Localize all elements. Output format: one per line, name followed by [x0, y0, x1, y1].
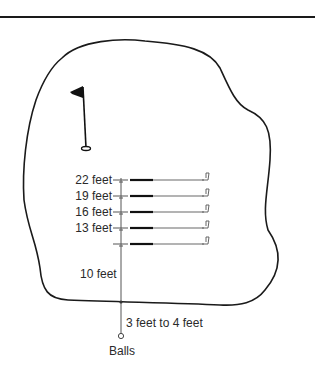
flag-icon [70, 86, 91, 151]
club-row-5 [130, 237, 209, 244]
distance-label-13: 13 feet [52, 221, 112, 235]
balls-marker-icon [118, 333, 123, 338]
distance-label-16: 16 feet [52, 205, 112, 219]
club-row-2 [130, 189, 209, 196]
gap-label: 10 feet [80, 267, 117, 281]
club-row-3 [130, 205, 209, 212]
distance-label-22: 22 feet [52, 173, 112, 187]
offgreen-distance-label: 3 feet to 4 feet [126, 316, 203, 330]
balls-label: Balls [109, 344, 135, 358]
club-row-4 [130, 221, 209, 228]
club-row-1 [130, 173, 209, 180]
distance-label-19: 19 feet [52, 189, 112, 203]
hole-icon [82, 147, 91, 151]
green-edge-marker [119, 300, 122, 303]
